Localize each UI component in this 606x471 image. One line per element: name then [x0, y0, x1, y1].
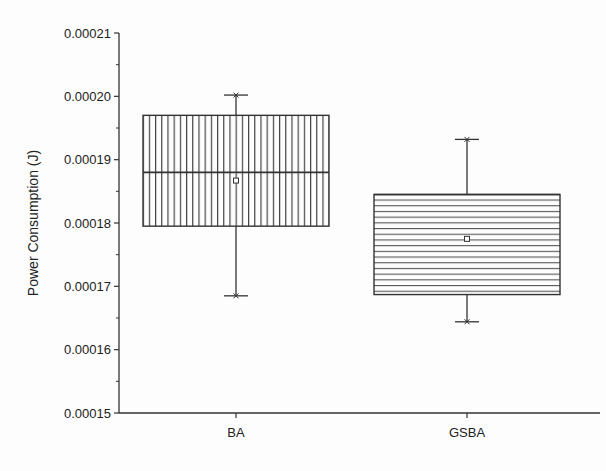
- y-tick-label: 0.00021: [64, 26, 111, 41]
- y-axis-title: Power Consumption (J): [25, 150, 41, 296]
- boxes: [143, 93, 560, 325]
- box-gsba: [374, 137, 560, 324]
- y-tick-label: 0.00020: [64, 89, 111, 104]
- y-tick-label: 0.00019: [64, 152, 111, 167]
- y-tick-label: 0.00018: [64, 216, 111, 231]
- mean-marker: [234, 178, 239, 183]
- box-ba: [143, 93, 329, 299]
- x-tick-label: GSBA: [449, 425, 485, 440]
- interquartile-box: [374, 195, 560, 295]
- interquartile-box: [143, 115, 329, 226]
- x-tick-label: BA: [227, 425, 245, 440]
- box-plot-chart: 0.000150.000160.000170.000180.000190.000…: [0, 0, 606, 471]
- figure-caption-fragment: [0, 461, 606, 471]
- y-tick-label: 0.00015: [64, 406, 111, 421]
- y-tick-label: 0.00017: [64, 279, 111, 294]
- mean-marker: [465, 236, 470, 241]
- y-tick-label: 0.00016: [64, 342, 111, 357]
